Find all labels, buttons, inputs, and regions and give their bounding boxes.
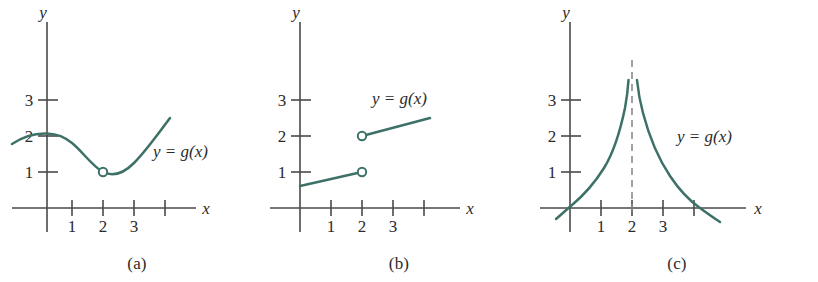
x-tick-label-1: 1: [597, 217, 606, 236]
panel-c-graph: 3 2 1 1 2 3 y x y = g(x): [532, 0, 818, 250]
x-tick-label-3: 3: [659, 217, 668, 236]
curve-label: y = g(x): [675, 127, 732, 146]
y-tick-label-3: 3: [548, 91, 557, 110]
segment-upper: [362, 118, 430, 136]
x-tick-label-2: 2: [358, 217, 367, 236]
segment-lower: [300, 172, 362, 186]
panel-b: 3 2 1 1 2 3 y x y = g(x) (b): [262, 0, 532, 282]
open-point-hole: [99, 168, 107, 176]
x-tick-label-1: 1: [68, 217, 77, 236]
y-tick-label-3: 3: [278, 91, 287, 110]
open-point-lower: [358, 168, 366, 176]
y-tick-label-2: 2: [548, 127, 557, 146]
y-tick-label-2: 2: [278, 127, 287, 146]
open-point-upper: [358, 132, 366, 140]
y-tick-label-1: 1: [548, 163, 557, 182]
y-axis-label: y: [37, 3, 47, 22]
three-panel-graph-figure: 3 2 1 1 2 3 y x y = g(x) (a): [0, 0, 818, 282]
y-tick-label-3: 3: [25, 91, 34, 110]
panel-a-graph: 3 2 1 1 2 3 y x y = g(x): [0, 0, 262, 250]
x-tick-label-3: 3: [130, 217, 139, 236]
panel-a: 3 2 1 1 2 3 y x y = g(x) (a): [0, 0, 262, 282]
curve-g-of-x: [12, 118, 170, 174]
panel-a-caption: (a): [0, 254, 268, 274]
curve-right-branch: [637, 80, 720, 222]
x-axis-label: x: [201, 199, 210, 218]
x-axis-label: x: [465, 199, 474, 218]
panel-b-caption: (b): [262, 254, 534, 274]
panel-c: 3 2 1 1 2 3 y x y = g(x) (c): [532, 0, 818, 282]
panel-c-caption: (c): [532, 254, 818, 274]
curve-label: y = g(x): [370, 89, 427, 108]
x-tick-label-3: 3: [389, 217, 398, 236]
curve-left-branch: [556, 80, 629, 219]
x-tick-label-2: 2: [99, 217, 108, 236]
y-tick-label-1: 1: [278, 163, 287, 182]
x-tick-label-2: 2: [628, 217, 637, 236]
y-axis-label: y: [290, 3, 300, 22]
panel-b-graph: 3 2 1 1 2 3 y x y = g(x): [262, 0, 532, 250]
y-axis-label: y: [560, 3, 570, 22]
curve-label: y = g(x): [151, 142, 208, 161]
x-tick-label-1: 1: [327, 217, 336, 236]
x-axis-label: x: [753, 199, 762, 218]
y-tick-label-1: 1: [25, 163, 34, 182]
